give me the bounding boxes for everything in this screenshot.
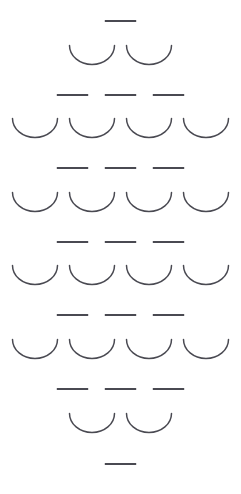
arc-glyph (125, 412, 173, 434)
dash-glyph (104, 17, 137, 25)
row-7-dash-triple (0, 238, 241, 246)
arc-glyph (11, 264, 59, 286)
row-2-arc-pair (0, 44, 241, 66)
arc-glyph (182, 191, 230, 213)
dash-glyph (104, 91, 137, 99)
dash-glyph (152, 91, 185, 99)
arc-glyph (68, 412, 116, 434)
arc-glyph (68, 117, 116, 139)
arc-glyph (68, 338, 116, 360)
row-1-dash-single (0, 17, 241, 25)
row-8-arc-quad (0, 264, 241, 286)
dash-glyph (104, 460, 137, 468)
row-12-arc-pair (0, 412, 241, 434)
dash-glyph (104, 238, 137, 246)
dash-glyph (104, 311, 137, 319)
arc-glyph (125, 44, 173, 66)
dash-glyph (56, 385, 89, 393)
dash-glyph (104, 385, 137, 393)
dash-glyph (152, 164, 185, 172)
dash-glyph (56, 238, 89, 246)
row-4-arc-quad (0, 117, 241, 139)
dash-glyph (152, 311, 185, 319)
arc-glyph (125, 264, 173, 286)
dash-glyph (104, 164, 137, 172)
row-11-dash-triple (0, 385, 241, 393)
arc-glyph (182, 117, 230, 139)
row-9-dash-triple (0, 311, 241, 319)
arc-glyph (182, 338, 230, 360)
arc-glyph (68, 264, 116, 286)
arc-glyph (68, 44, 116, 66)
arc-glyph (125, 191, 173, 213)
row-10-arc-quad (0, 338, 241, 360)
arc-glyph (125, 117, 173, 139)
row-5-dash-triple (0, 164, 241, 172)
pattern-canvas (0, 0, 241, 494)
row-3-dash-triple (0, 91, 241, 99)
dash-glyph (56, 311, 89, 319)
arc-glyph (125, 338, 173, 360)
row-6-arc-quad (0, 191, 241, 213)
row-13-dash-single (0, 460, 241, 468)
arc-glyph (68, 191, 116, 213)
dash-glyph (152, 238, 185, 246)
dash-glyph (56, 164, 89, 172)
arc-glyph (182, 264, 230, 286)
arc-glyph (11, 117, 59, 139)
dash-glyph (56, 91, 89, 99)
arc-glyph (11, 338, 59, 360)
dash-glyph (152, 385, 185, 393)
arc-glyph (11, 191, 59, 213)
